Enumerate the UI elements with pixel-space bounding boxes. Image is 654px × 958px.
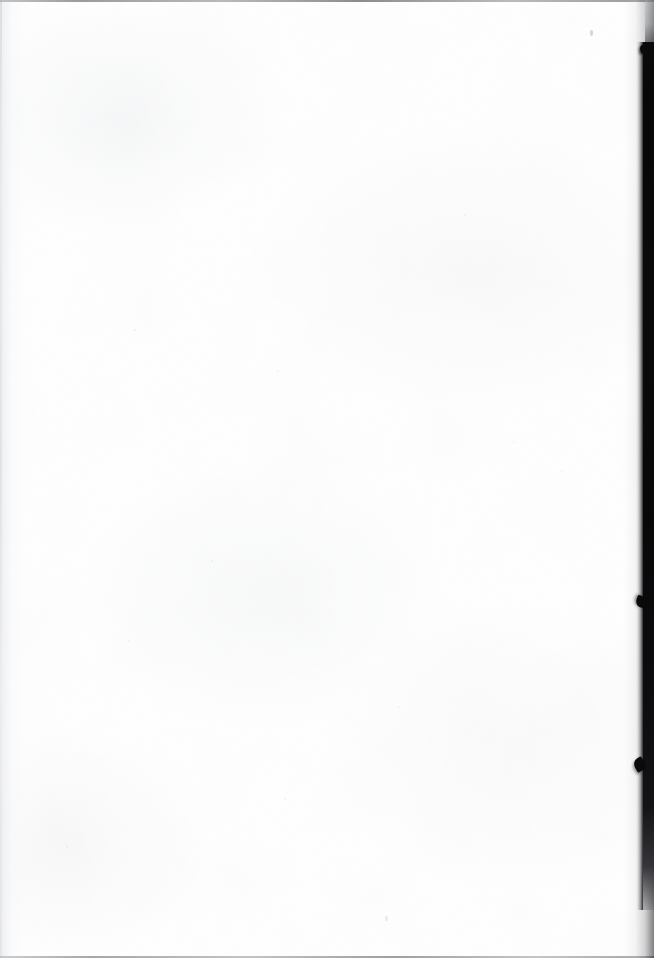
page-edge-top: [0, 0, 654, 2]
gutter-shadow-feather: [636, 42, 643, 910]
scanned-page: [0, 0, 654, 958]
gutter-top-cap: [645, 0, 654, 44]
paper-sheet: [0, 0, 654, 958]
gutter-dark-band: [643, 42, 654, 910]
left-margin-falloff: [0, 0, 26, 958]
page-edge-left: [0, 0, 2, 958]
